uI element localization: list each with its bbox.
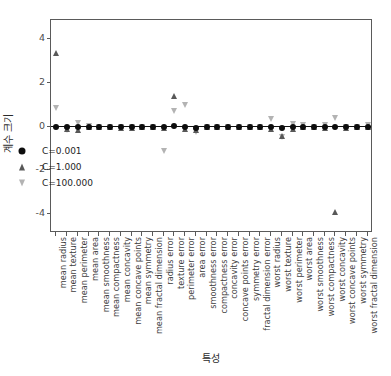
data-point <box>75 124 81 130</box>
x-tick-mark <box>173 232 174 236</box>
data-point <box>268 116 274 122</box>
x-tick-label: worst compactness <box>327 237 335 316</box>
x-tick-label: mean fractal dimension <box>155 237 163 334</box>
x-tick-label: worst radius <box>273 237 281 287</box>
data-point <box>161 148 167 154</box>
x-axis-label: 특성 <box>50 350 372 365</box>
x-tick-label: mean concave points <box>134 237 142 325</box>
x-tick-label: worst texture <box>284 237 292 292</box>
x-tick-label: worst concavity <box>338 237 346 302</box>
x-tick-mark <box>131 232 132 236</box>
x-tick-mark <box>98 232 99 236</box>
x-tick-mark <box>120 232 121 236</box>
x-tick-mark <box>334 232 335 236</box>
x-tick-label: worst concave points <box>348 237 356 324</box>
data-point <box>279 125 285 131</box>
data-point <box>300 124 306 130</box>
x-tick-label: symmetry error <box>252 237 260 301</box>
x-tick-label: mean texture <box>69 237 77 292</box>
data-point <box>118 124 124 130</box>
data-point <box>171 93 177 99</box>
data-point <box>171 123 177 129</box>
data-point <box>236 124 242 130</box>
data-point <box>332 124 338 130</box>
data-point <box>279 133 285 139</box>
data-point <box>53 105 59 111</box>
x-tick-label: mean compactness <box>112 237 120 317</box>
x-tick-label: mean area <box>91 237 99 281</box>
data-point <box>107 124 113 130</box>
x-tick-mark <box>324 232 325 236</box>
x-tick-mark <box>281 232 282 236</box>
data-point <box>214 124 220 130</box>
coefficient-magnitude-chart: 계수 크기 420-2-4 mean radiusmean texturemea… <box>0 0 391 376</box>
x-tick-mark <box>141 232 142 236</box>
legend-label: C=100.000 <box>42 178 93 188</box>
data-point <box>365 124 371 130</box>
x-tick-mark <box>206 232 207 236</box>
x-tick-mark <box>88 232 89 236</box>
plot-area <box>50 19 372 232</box>
data-point <box>311 124 317 130</box>
data-point <box>322 124 328 130</box>
x-tick-mark <box>195 232 196 236</box>
data-point <box>332 209 338 215</box>
data-point <box>332 115 338 121</box>
x-tick-mark <box>270 232 271 236</box>
x-tick-mark <box>216 232 217 236</box>
data-point <box>182 102 188 108</box>
x-tick-mark <box>109 232 110 236</box>
data-point <box>53 50 59 56</box>
data-point <box>247 124 253 130</box>
data-point <box>171 108 177 114</box>
y-tick-label: 4 <box>23 33 45 43</box>
x-tick-label: concave points error <box>241 237 249 321</box>
x-tick-mark <box>55 232 56 236</box>
x-tick-mark <box>292 232 293 236</box>
x-tick-mark <box>163 232 164 236</box>
y-axis-label: 계수 크기 <box>0 107 15 161</box>
y-tick-label: 2 <box>23 77 45 87</box>
data-point <box>290 124 296 130</box>
data-point <box>64 124 70 130</box>
x-tick-mark <box>249 232 250 236</box>
x-tick-mark <box>227 232 228 236</box>
x-tick-mark <box>367 232 368 236</box>
data-point <box>53 124 59 130</box>
x-tick-label: texture error <box>177 237 185 289</box>
data-point <box>343 124 349 130</box>
x-tick-label: mean perimeter <box>80 237 88 303</box>
x-tick-label: compactness error <box>220 237 228 314</box>
data-point <box>139 124 145 130</box>
x-tick-mark <box>259 232 260 236</box>
data-point <box>193 125 199 131</box>
data-point <box>225 124 231 130</box>
x-tick-label: worst perimeter <box>295 237 303 303</box>
legend-label: C=0.001 <box>42 146 82 156</box>
data-point <box>96 124 102 130</box>
x-tick-label: fractal dimension error <box>263 237 271 331</box>
x-tick-label: mean radius <box>59 237 67 288</box>
data-point <box>354 124 360 130</box>
x-tick-label: mean concavity <box>123 237 131 302</box>
x-tick-mark <box>66 232 67 236</box>
data-point <box>268 124 274 130</box>
x-tick-label: worst symmetry <box>359 237 367 304</box>
x-tick-label: worst smoothness <box>316 237 324 312</box>
x-tick-mark <box>238 232 239 236</box>
x-tick-label: concavity error <box>230 237 238 299</box>
x-tick-label: worst area <box>305 237 313 280</box>
data-point <box>161 124 167 130</box>
x-tick-mark <box>345 232 346 236</box>
x-tick-mark <box>152 232 153 236</box>
x-tick-label: mean symmetry <box>144 237 152 304</box>
x-tick-label: mean smoothness <box>102 237 110 312</box>
data-point <box>150 124 156 130</box>
x-tick-mark <box>184 232 185 236</box>
x-tick-label: worst fractal dimension <box>370 237 378 333</box>
x-tick-mark <box>356 232 357 236</box>
x-tick-label: smoothness error <box>209 237 217 309</box>
legend-label: C=1.000 <box>42 162 82 172</box>
x-tick-mark <box>77 232 78 236</box>
data-point <box>86 124 92 130</box>
